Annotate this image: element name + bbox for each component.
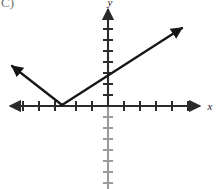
- function-curve: [12, 28, 182, 105]
- left-branch: [12, 66, 62, 105]
- x-axis: [10, 101, 200, 111]
- coordinate-plane: x y: [0, 0, 223, 189]
- y-axis-lower: [103, 106, 113, 189]
- y-axis-label: y: [107, 0, 113, 8]
- right-branch: [62, 28, 182, 105]
- graph-figure-c: C): [0, 0, 223, 189]
- x-axis-label: x: [207, 100, 213, 112]
- y-axis-upper: [103, 9, 113, 106]
